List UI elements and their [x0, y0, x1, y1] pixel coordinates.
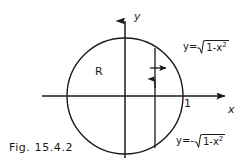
x-tick-label-1: 1 — [184, 98, 191, 109]
upper-radicand-exponent: 2 — [222, 41, 226, 49]
lower-radicand-body: 1-x — [203, 136, 219, 147]
upper-radicand: 1-x2 — [205, 40, 228, 54]
radical-sign-icon — [194, 134, 202, 148]
upper-radical-icon: 1-x2 — [197, 40, 228, 54]
radical-sign-icon — [197, 40, 205, 54]
lower-curve-lead: y= — [176, 136, 190, 146]
upper-radicand-body: 1-x — [206, 42, 222, 53]
x-axis-label: x — [228, 104, 235, 115]
lower-curve-equation-label: y=-1-x2 — [176, 134, 225, 148]
y-axis-label: y — [134, 11, 141, 22]
figure-container: x y R 1 y=1-x2 y=-1-x2 Fig. 15.4.2 — [0, 0, 246, 168]
lower-radical-icon: 1-x2 — [194, 134, 225, 148]
region-label: R — [95, 66, 103, 77]
upper-curve-equation-label: y=1-x2 — [183, 40, 229, 54]
figure-caption: Fig. 15.4.2 — [9, 142, 73, 153]
lower-radicand-exponent: 2 — [219, 135, 223, 143]
lower-radicand: 1-x2 — [202, 134, 225, 148]
upper-curve-lead: y= — [183, 42, 197, 52]
